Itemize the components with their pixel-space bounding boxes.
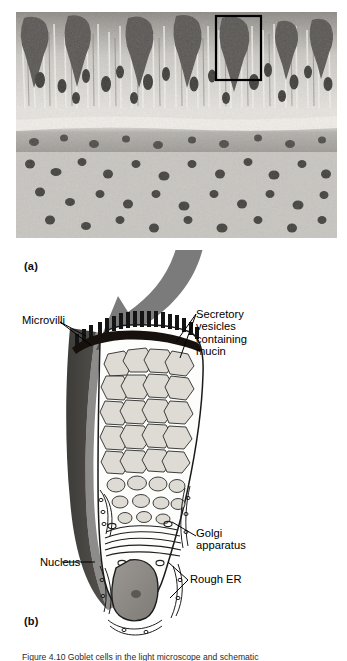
diagram-panel-b <box>0 250 347 650</box>
label-microvilli: Microvilli <box>22 314 65 326</box>
micrograph-image <box>16 12 337 238</box>
label-secretory-vesicles: Secretory vesicles containing mucin <box>196 308 247 358</box>
label-rough-er: Rough ER <box>190 573 242 585</box>
label-nucleus: Nucleus <box>40 556 80 568</box>
panel-label-b: (b) <box>24 615 39 627</box>
figure-goblet-cell: (a) <box>0 0 347 661</box>
nucleolus <box>131 590 141 598</box>
label-golgi-apparatus: Golgi apparatus <box>196 527 246 552</box>
micrograph-panel-a <box>16 12 337 238</box>
leader-rough-er-2 <box>170 580 188 598</box>
figure-caption: Figure 4.10 Goblet cells in the light mi… <box>22 652 332 661</box>
